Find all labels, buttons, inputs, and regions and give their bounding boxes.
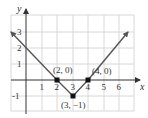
y-axis-label: y [16, 3, 22, 14]
x-tick-4: 4 [86, 82, 91, 92]
x-tick-6: 6 [117, 82, 122, 92]
left-ray [11, 32, 57, 80]
x-axis-label: x [139, 81, 145, 92]
y-tick-neg1: -1 [12, 91, 20, 101]
label-3-neg1: (3, −1) [61, 100, 86, 110]
point-2-0 [55, 78, 60, 83]
y-tick-2: 2 [17, 43, 22, 53]
y-tick-1: 1 [17, 59, 22, 69]
label-2-0: (2, 0) [53, 65, 73, 75]
x-tick-1: 1 [40, 82, 45, 92]
x-tick-2: 2 [55, 82, 60, 92]
point-4-0 [86, 78, 91, 83]
x-tick-5: 5 [102, 82, 107, 92]
y-tick-3: 3 [17, 27, 22, 37]
point-3-neg1 [71, 94, 76, 99]
graph: x y 1 2 3 4 5 6 3 2 1 -1 (2, 0) (3, −1) … [0, 0, 148, 118]
x-tick-3: 3 [71, 82, 76, 92]
label-4-0: (4, 0) [92, 66, 112, 76]
